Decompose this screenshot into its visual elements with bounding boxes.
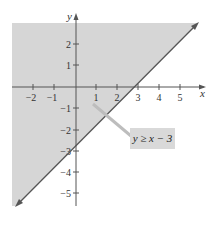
svg-text:−2: −2 <box>60 125 71 136</box>
svg-text:−1: −1 <box>47 92 58 103</box>
inequality-label: y ≥ x − 3 <box>132 132 173 144</box>
svg-text:−4: −4 <box>60 167 71 178</box>
svg-text:−5: −5 <box>60 188 71 199</box>
svg-text:1: 1 <box>94 92 99 103</box>
y-axis-arrow-icon <box>74 13 79 20</box>
inequality-graph: x y −2 −1 1 2 3 4 5 2 1 −1 −2 −3 −4 <box>0 0 215 227</box>
svg-text:2: 2 <box>115 92 120 103</box>
svg-text:5: 5 <box>178 92 183 103</box>
svg-text:3: 3 <box>136 92 141 103</box>
svg-text:1: 1 <box>66 60 71 71</box>
svg-text:2: 2 <box>66 39 71 50</box>
svg-text:−2: −2 <box>26 92 37 103</box>
y-axis-label: y <box>66 10 72 22</box>
svg-text:−1: −1 <box>60 103 71 114</box>
x-axis-label: x <box>199 87 205 99</box>
svg-text:4: 4 <box>157 92 162 103</box>
